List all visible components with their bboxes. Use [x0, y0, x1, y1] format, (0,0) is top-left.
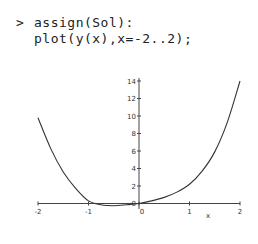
plot-output[interactable]: -2-1012 02468101214 x	[0, 0, 258, 244]
x-axis-label: x	[206, 212, 210, 220]
y-tick-label: 8	[132, 130, 136, 138]
x-tick-label: 1	[187, 208, 191, 216]
x-tick-label: 2	[238, 208, 242, 216]
y-tick-label: 10	[127, 113, 136, 121]
y-tick-label: 2	[132, 183, 136, 191]
y-tick-label: 4	[132, 165, 137, 173]
x-tick-label: -1	[85, 208, 92, 216]
y-tick-label: 12	[127, 95, 136, 103]
x-tick-label: -2	[35, 208, 42, 216]
y-tick-label: 14	[127, 78, 136, 86]
x-tick-label: 0	[140, 208, 144, 216]
y-tick-label: 6	[132, 148, 137, 156]
